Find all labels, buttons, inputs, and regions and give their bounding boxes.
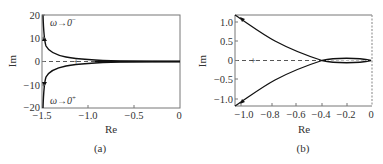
xtick-b-neg0.2: −0.2 <box>336 109 355 120</box>
annotation-omega-to-0-minus: ω→0− <box>50 16 76 28</box>
x-axis-label-a: Re <box>105 123 117 135</box>
xtick-b-0: 0 <box>368 109 373 120</box>
ytick-b-neg0.5: −0.5 <box>214 74 233 85</box>
xtick-b-neg1.0: −1.0 <box>234 109 253 120</box>
x-axis-label-b: Re <box>298 123 310 135</box>
xtick-b-neg0.8: −0.8 <box>260 109 279 120</box>
panel-b: + 1.0 0.5 0 −0.5 −1.0 −1.0 −0.8 −0.6 −0.… <box>196 15 374 155</box>
ytick-a-20: 20 <box>30 10 41 21</box>
annotation-omega-to-0-plus: ω→0+ <box>50 94 76 106</box>
xtick-a-0: 0 <box>176 110 181 121</box>
ytick-b-neg1.0: −1.0 <box>214 94 233 105</box>
caption-a: (a) <box>94 142 107 155</box>
ytick-a-0: 0 <box>35 56 40 67</box>
critical-point-marker-b: + <box>250 55 256 66</box>
curve-upper-branch-b <box>235 15 322 61</box>
y-axis-label-a: Im <box>6 54 18 67</box>
y-axis-label-b: Im <box>196 54 208 67</box>
ytick-b-0.5: 0.5 <box>220 36 233 47</box>
panel-a: + 20 10 0 −10 −20 −1.5 −1.0 −0.5 0 ω→0− … <box>6 10 182 155</box>
ytick-b-1.0: 1.0 <box>220 17 233 28</box>
ytick-a-10: 10 <box>30 33 41 44</box>
xtick-b-neg0.6: −0.6 <box>286 109 305 120</box>
caption-b: (b) <box>297 142 310 155</box>
critical-point-marker-a: + <box>73 56 79 67</box>
xtick-a-neg1.0: −1.0 <box>78 110 97 121</box>
ytick-b-0: 0 <box>228 55 233 66</box>
xtick-a-neg1.5: −1.5 <box>32 110 51 121</box>
figure: + 20 10 0 −10 −20 −1.5 −1.0 −0.5 0 ω→0− … <box>0 0 383 164</box>
curve-lower-branch-b <box>235 61 322 107</box>
ytick-a-neg10: −10 <box>24 80 40 91</box>
xtick-a-neg0.5: −0.5 <box>124 110 143 121</box>
xtick-b-neg0.4: −0.4 <box>311 109 331 120</box>
